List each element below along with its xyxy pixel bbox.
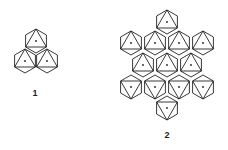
inscribed-triangle bbox=[145, 31, 166, 49]
inscribed-triangle bbox=[169, 31, 190, 49]
inscribed-triangle bbox=[181, 53, 202, 71]
figure-1-label: 1 bbox=[32, 88, 37, 98]
center-dot bbox=[24, 60, 26, 62]
center-dot bbox=[142, 64, 144, 66]
inscribed-triangle bbox=[121, 81, 142, 99]
figure-1 bbox=[15, 29, 58, 73]
inscribed-triangle bbox=[193, 31, 214, 49]
inscribed-triangle bbox=[193, 81, 214, 99]
inscribed-triangle bbox=[121, 31, 142, 49]
center-dot bbox=[190, 64, 192, 66]
center-dot bbox=[130, 86, 132, 88]
figure-2 bbox=[121, 10, 214, 120]
hexagon-tiling-diagram bbox=[0, 0, 228, 150]
center-dot bbox=[46, 60, 48, 62]
center-dot bbox=[166, 107, 168, 109]
inscribed-triangle bbox=[133, 53, 154, 71]
inscribed-triangle bbox=[15, 49, 36, 67]
inscribed-triangle bbox=[37, 49, 58, 67]
inscribed-triangle bbox=[157, 53, 178, 71]
figure-2-label: 2 bbox=[164, 130, 169, 140]
center-dot bbox=[35, 40, 37, 42]
center-dot bbox=[166, 64, 168, 66]
inscribed-triangle bbox=[157, 102, 178, 120]
inscribed-triangle bbox=[145, 81, 166, 99]
center-dot bbox=[154, 86, 156, 88]
inscribed-triangle bbox=[157, 10, 178, 28]
inscribed-triangle bbox=[169, 81, 190, 99]
center-dot bbox=[166, 21, 168, 23]
center-dot bbox=[154, 42, 156, 44]
center-dot bbox=[202, 86, 204, 88]
inscribed-triangle bbox=[26, 29, 47, 47]
center-dot bbox=[202, 42, 204, 44]
center-dot bbox=[178, 86, 180, 88]
center-dot bbox=[178, 42, 180, 44]
center-dot bbox=[130, 42, 132, 44]
